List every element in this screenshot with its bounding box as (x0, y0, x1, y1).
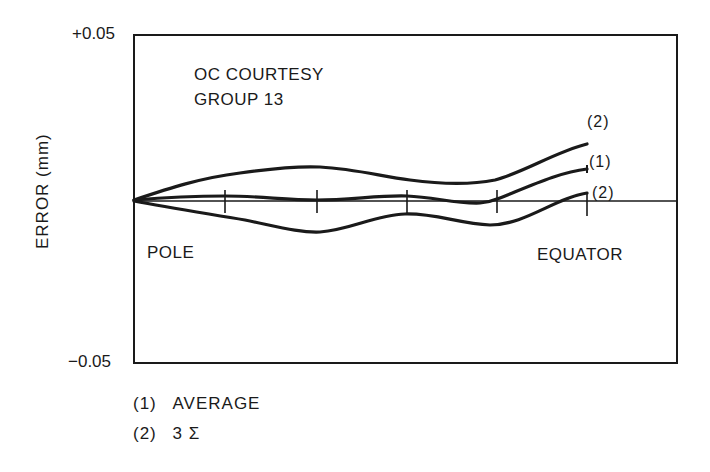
y-tick-bottom: −0.05 (68, 352, 111, 372)
legend: (1) AVERAGE (2) 3 Σ (133, 394, 260, 454)
y-tick-top: +0.05 (72, 24, 115, 44)
annotation-line-1: OC COURTESY (194, 62, 324, 87)
legend-text-2: 3 Σ (173, 424, 201, 443)
series-label-average: (1) (589, 153, 612, 171)
region-label-equator: EQUATOR (537, 245, 623, 265)
annotation-line-2: GROUP 13 (194, 87, 324, 112)
series-average (134, 169, 587, 203)
legend-key-1: (1) (133, 394, 157, 413)
series-label-upper: (2) (587, 113, 610, 131)
y-axis-label: ERROR (mm) (33, 139, 53, 249)
x-ticks (225, 190, 587, 216)
legend-item-average: (1) AVERAGE (133, 394, 260, 424)
region-label-pole: POLE (147, 243, 194, 263)
chart-plot (0, 0, 710, 472)
legend-item-3sigma: (2) 3 Σ (133, 424, 260, 454)
legend-text-1: AVERAGE (173, 394, 261, 413)
chart-annotation: OC COURTESY GROUP 13 (194, 62, 324, 112)
legend-key-2: (2) (133, 424, 157, 443)
series-label-lower: (2) (592, 184, 615, 202)
